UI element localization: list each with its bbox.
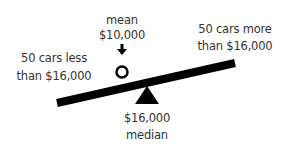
right-label-line1: 50 cars more	[190, 22, 280, 37]
right-label-line2: than $16,000	[190, 39, 280, 54]
left-group-label: 50 cars less than $16,000	[8, 51, 100, 84]
left-label-line2: than $16,000	[8, 69, 100, 84]
down-arrow-icon	[117, 44, 127, 55]
median-value: $16,000	[118, 111, 176, 126]
median-title: median	[118, 128, 176, 143]
mean-label: mean $10,000	[96, 13, 148, 43]
median-label: $16,000 median	[118, 111, 176, 143]
mean-marker-icon	[117, 67, 128, 78]
right-group-label: 50 cars more than $16,000	[190, 22, 280, 54]
mean-title: mean	[96, 13, 148, 28]
mean-value: $10,000	[96, 28, 148, 43]
left-label-line1: 50 cars less	[8, 51, 100, 66]
